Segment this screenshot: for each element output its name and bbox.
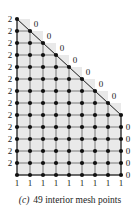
- svg-text:2: 2: [8, 26, 13, 36]
- svg-text:0: 0: [126, 158, 131, 168]
- svg-text:1: 1: [41, 178, 46, 188]
- svg-text:0: 0: [126, 170, 131, 180]
- svg-text:0: 0: [47, 31, 52, 41]
- svg-text:0: 0: [60, 43, 65, 53]
- svg-text:2: 2: [8, 158, 13, 168]
- svg-text:0: 0: [126, 134, 131, 144]
- svg-text:1: 1: [93, 178, 98, 188]
- svg-text:1: 1: [80, 178, 85, 188]
- caption-text: 49 interior mesh points: [33, 195, 121, 205]
- svg-text:2: 2: [8, 134, 13, 144]
- svg-text:0: 0: [126, 146, 131, 156]
- svg-text:0: 0: [112, 91, 117, 101]
- svg-text:2: 2: [8, 14, 13, 24]
- svg-text:2: 2: [8, 98, 13, 108]
- svg-text:0: 0: [99, 79, 104, 89]
- svg-text:0: 0: [126, 122, 131, 132]
- svg-text:1: 1: [67, 178, 72, 188]
- svg-text:1: 1: [106, 178, 111, 188]
- svg-text:2: 2: [8, 62, 13, 72]
- mesh-diagram: 2222222222222111111111000000000000: [0, 0, 140, 210]
- mesh-figure: 2222222222222111111111000000000000 (c) 4…: [0, 0, 140, 210]
- svg-text:1: 1: [119, 178, 124, 188]
- svg-text:1: 1: [28, 178, 33, 188]
- caption-tag: (c): [19, 195, 30, 205]
- svg-text:2: 2: [8, 74, 13, 84]
- svg-text:0: 0: [34, 19, 39, 29]
- svg-text:2: 2: [8, 86, 13, 96]
- svg-text:1: 1: [54, 178, 59, 188]
- svg-text:2: 2: [8, 110, 13, 120]
- figure-caption: (c) 49 interior mesh points: [0, 190, 140, 210]
- svg-text:2: 2: [8, 50, 13, 60]
- svg-text:0: 0: [86, 67, 91, 77]
- svg-text:0: 0: [73, 55, 78, 65]
- svg-text:2: 2: [8, 38, 13, 48]
- svg-text:2: 2: [8, 122, 13, 132]
- svg-text:1: 1: [15, 178, 20, 188]
- svg-text:2: 2: [8, 146, 13, 156]
